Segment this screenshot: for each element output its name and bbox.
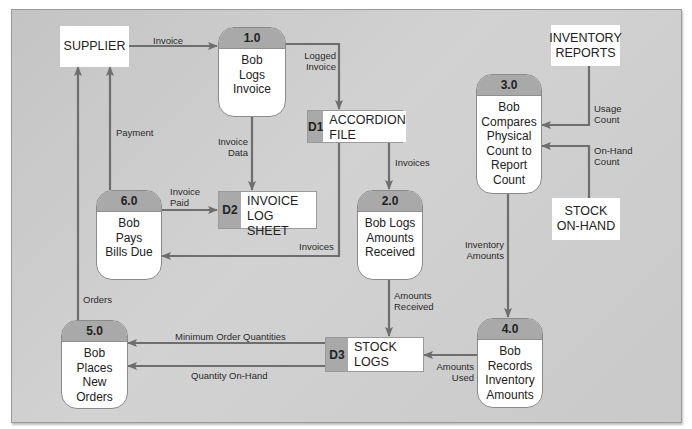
datastore-id: D3	[326, 338, 348, 371]
flow-label-on-hand-count: On-Hand Count	[594, 145, 633, 167]
process-3-compare-count: 3.0 Bob Compares Physical Count to Repor…	[476, 74, 542, 194]
process-name: Bob Records Inventory Amounts	[478, 340, 542, 402]
entity-label: SUPPLIER	[64, 39, 126, 54]
flow-label-invoice-paid: Invoice Paid	[170, 186, 200, 208]
datastore-d3-stock-logs: D3 STOCK LOGS	[325, 337, 424, 372]
flow-label-quantity-on-hand: Quantity On-Hand	[191, 370, 268, 381]
datastore-id: D1	[308, 111, 323, 142]
flow-label-invoices-to-6: Invoices	[299, 241, 334, 252]
process-id: 6.0	[97, 191, 161, 212]
flow-label-invoice-data: Invoice Data	[210, 136, 248, 158]
datastore-id: D2	[219, 192, 241, 228]
datastore-name: ACCORDION FILE	[323, 111, 405, 142]
entity-supplier: SUPPLIER	[60, 26, 129, 67]
datastore-d1-accordion-file: D1 ACCORDION FILE	[307, 110, 403, 143]
process-id: 5.0	[62, 321, 127, 342]
flow-label-amounts-received: Amounts Received	[394, 290, 434, 312]
process-id: 1.0	[219, 28, 285, 49]
flow-label-logged-invoice: Logged Invoice	[297, 50, 336, 72]
process-1-log-invoice: 1.0 Bob Logs Invoice	[218, 27, 286, 117]
entity-label: INVENTORY REPORTS	[549, 31, 621, 61]
flow-label-orders: Orders	[83, 294, 112, 305]
entity-inventory-reports: INVENTORY REPORTS	[551, 25, 620, 66]
flow-label-amounts-used: Amounts Used	[430, 361, 474, 383]
flow-label-invoices-to-2: Invoices	[395, 157, 430, 168]
flow-label-inventory-amounts: Inventory Amounts	[455, 239, 504, 261]
process-name: Bob Compares Physical Count to Report Co…	[477, 96, 541, 187]
entity-label: STOCK ON-HAND	[557, 204, 615, 234]
process-4-record-inventory: 4.0 Bob Records Inventory Amounts	[477, 318, 543, 408]
process-name: Bob Logs Amounts Received	[358, 212, 422, 260]
process-2-log-amounts: 2.0 Bob Logs Amounts Received	[357, 190, 423, 280]
datastore-d2-invoice-log-sheet: D2 INVOICE LOG SHEET	[218, 191, 317, 229]
process-name: Bob Places New Orders	[62, 342, 127, 404]
datastore-name: INVOICE LOG SHEET	[241, 192, 316, 228]
process-5-place-orders: 5.0 Bob Places New Orders	[61, 320, 128, 409]
flow-label-payment: Payment	[116, 127, 154, 138]
process-id: 2.0	[358, 191, 422, 212]
process-6-pay-bills: 6.0 Bob Pays Bills Due	[96, 190, 162, 280]
process-id: 3.0	[477, 75, 541, 96]
process-id: 4.0	[478, 319, 542, 340]
process-name: Bob Logs Invoice	[219, 49, 285, 97]
datastore-name: STOCK LOGS	[348, 338, 423, 371]
flow-label-invoice: Invoice	[153, 35, 183, 46]
process-name: Bob Pays Bills Due	[97, 212, 161, 260]
flow-label-minimum-order-quantities: Minimum Order Quantities	[175, 331, 286, 342]
entity-stock-on-hand: STOCK ON-HAND	[552, 198, 620, 240]
flow-label-usage-count: Usage Count	[594, 103, 621, 125]
